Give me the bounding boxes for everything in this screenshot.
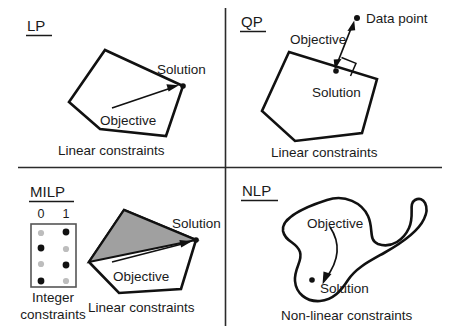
nlp-objective-label: Objective xyxy=(307,216,363,231)
quadrant-lp: LP Solution Objective Linear constraints xyxy=(26,17,206,158)
milp-constraints-label: Linear constraints xyxy=(88,300,195,315)
qp-solution-point xyxy=(333,68,339,74)
milp-grid-dot xyxy=(38,245,45,252)
lp-constraints-label: Linear constraints xyxy=(58,143,165,158)
milp-objective-label: Objective xyxy=(113,269,169,284)
milp-grid-dot xyxy=(63,246,69,252)
lp-solution-label: Solution xyxy=(157,62,206,77)
lp-solution-point xyxy=(180,83,186,89)
qp-constraints-label: Linear constraints xyxy=(271,145,378,160)
lp-title: LP xyxy=(27,17,45,34)
lp-objective-label: Objective xyxy=(100,113,156,128)
milp-solution-label: Solution xyxy=(172,216,221,231)
milp-solution-point xyxy=(193,237,199,243)
quadrant-dividers xyxy=(18,8,442,326)
qp-data-point xyxy=(354,15,360,21)
milp-grid-dot xyxy=(38,230,44,236)
milp-grid-dot xyxy=(63,262,70,269)
qp-data-point-label: Data point xyxy=(366,11,428,26)
milp-grid-dot xyxy=(63,229,70,236)
qp-solution-label: Solution xyxy=(312,85,361,100)
milp-grid-dot xyxy=(38,278,45,285)
optimization-classes-figure: LP Solution Objective Linear constraints… xyxy=(0,0,451,334)
qp-title: QP xyxy=(241,13,263,30)
milp-grid-header-0: 0 xyxy=(38,207,45,221)
quadrant-qp: QP Data point Objective Solution Linear … xyxy=(240,11,428,160)
milp-integer-caption-line2: constraints xyxy=(20,307,86,322)
qp-objective-label: Objective xyxy=(290,32,346,47)
milp-integer-caption-line1: Integer xyxy=(32,290,75,305)
nlp-solution-point xyxy=(309,277,315,283)
nlp-constraints-label: Non-linear constraints xyxy=(281,308,413,323)
milp-title: MILP xyxy=(30,183,65,200)
quadrant-milp: MILP 0 1 Integer constr xyxy=(20,183,220,322)
milp-grid-dot xyxy=(63,278,69,284)
quadrant-nlp: NLP Objective Solution Non-linear constr… xyxy=(241,182,426,323)
nlp-solution-label: Solution xyxy=(320,281,369,296)
milp-grid-box xyxy=(31,224,76,287)
milp-grid-dot xyxy=(38,261,44,267)
nlp-title: NLP xyxy=(242,182,271,199)
milp-grid-header-1: 1 xyxy=(63,207,70,221)
milp-integer-grid: 0 1 xyxy=(31,207,76,287)
